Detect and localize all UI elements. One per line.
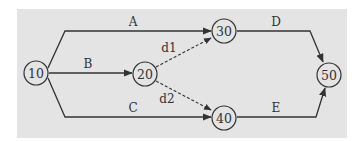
edge-b: B: [49, 57, 132, 73]
edge-d2-label: d2: [159, 92, 174, 106]
node-30: 30: [212, 19, 236, 43]
edge-a-label: A: [128, 15, 138, 29]
edge-d1: d1: [156, 38, 211, 67]
edge-e: E: [237, 88, 325, 117]
node-10-label: 10: [28, 66, 44, 81]
node-40: 40: [212, 106, 236, 130]
edge-a: A: [48, 15, 211, 68]
node-30-label: 30: [216, 24, 232, 39]
node-50: 50: [317, 63, 341, 87]
edge-e-label: E: [272, 101, 281, 115]
network-diagram: A B C D E d1 d2 10 20 30: [0, 0, 362, 141]
edge-d1-label: d1: [161, 41, 176, 55]
edge-c-label: C: [128, 101, 137, 115]
edge-d: D: [237, 15, 323, 62]
node-20-label: 20: [137, 67, 153, 82]
node-20: 20: [133, 62, 157, 86]
node-10: 10: [24, 61, 48, 85]
edge-c: C: [48, 78, 211, 117]
edge-b-label: B: [84, 57, 93, 71]
edge-d2: d2: [156, 81, 211, 110]
edge-d-label: D: [271, 15, 281, 29]
node-50-label: 50: [321, 68, 337, 83]
node-40-label: 40: [216, 111, 232, 126]
